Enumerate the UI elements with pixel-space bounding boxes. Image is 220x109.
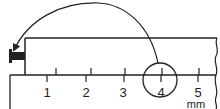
- break-edge: [215, 38, 217, 109]
- scale-label-1: 1: [43, 85, 50, 100]
- scale-label-4: 4: [157, 85, 164, 100]
- upper-ticks: [56, 68, 199, 75]
- caliper-diagram: 1 2 3 4 5 mm: [0, 0, 220, 109]
- scale-label-2: 2: [82, 85, 89, 100]
- sliding-bar: [25, 38, 217, 75]
- scale-ticks: [47, 75, 198, 82]
- scale-label-3: 3: [119, 85, 126, 100]
- unit-label: mm: [187, 98, 205, 109]
- curved-arrow: [14, 3, 158, 63]
- jaw-block: [9, 49, 25, 63]
